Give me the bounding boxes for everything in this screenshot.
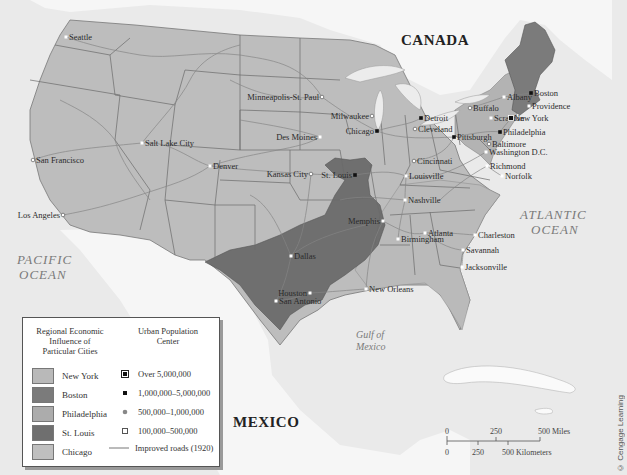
square-white-icon <box>120 428 130 434</box>
legend-improved-roads: Improved roads (1920) <box>109 443 213 453</box>
city-marker <box>365 288 368 291</box>
city-marker <box>509 116 514 121</box>
label-gulf-2: Mexico <box>355 341 385 352</box>
city-label: Boston <box>534 88 559 98</box>
city-marker <box>65 36 68 39</box>
legend-region-boston: Boston <box>32 387 88 403</box>
city-marker <box>61 213 65 217</box>
city-marker <box>485 151 488 154</box>
city-label: Savannah <box>466 245 500 255</box>
label-canada: CANADA <box>401 32 469 48</box>
svg-text:250: 250 <box>490 427 502 436</box>
city-marker <box>353 173 357 177</box>
city-marker <box>209 165 212 168</box>
city-marker <box>375 129 379 133</box>
city-label: Nashville <box>408 195 441 205</box>
city-marker <box>319 136 322 139</box>
city-marker <box>474 234 477 237</box>
svg-text:0: 0 <box>445 427 449 436</box>
city-marker <box>275 300 278 303</box>
legend-pop-1m-5m: 1,000,000–5,000,000 <box>120 388 210 398</box>
svg-text:500 Kilometers: 500 Kilometers <box>502 448 552 457</box>
city-label: Salt Lake City <box>145 138 195 148</box>
city-marker <box>461 266 464 269</box>
city-label: Des Moines <box>276 132 317 142</box>
city-label: Charleston <box>478 230 516 240</box>
city-marker <box>405 175 408 178</box>
label-atlantic-1: ATLANTIC <box>519 207 587 222</box>
label-atlantic-2: OCEAN <box>531 222 579 237</box>
city-label: New York <box>514 113 549 123</box>
city-marker <box>486 165 489 168</box>
svg-text:500 Miles: 500 Miles <box>538 427 570 436</box>
swatch-st-louis <box>32 425 54 441</box>
city-marker <box>462 249 465 252</box>
city-label: Richmond <box>490 161 526 171</box>
swatch-chicago <box>32 444 54 460</box>
city-marker <box>503 96 506 99</box>
city-label: Providence <box>532 101 570 111</box>
city-marker <box>419 116 423 120</box>
copyright-credit: © Cengage Learning <box>616 395 625 472</box>
city-label: Dallas <box>294 251 316 261</box>
label-gulf-1: Gulf of <box>356 329 385 340</box>
city-label: Chicago <box>346 126 374 136</box>
map-legend: Regional Economic Influence of Particula… <box>22 317 220 467</box>
legend-region-st-louis: St. Louis <box>32 425 95 441</box>
svg-text:250: 250 <box>472 448 484 457</box>
city-marker <box>309 292 312 295</box>
legend-urban-title: Urban Population Center <box>123 326 213 346</box>
city-label: Louisville <box>409 171 444 181</box>
road-line-icon <box>109 446 129 450</box>
city-label: Memphis <box>348 216 380 226</box>
city-marker <box>397 238 400 241</box>
city-marker <box>490 117 493 120</box>
city-marker <box>290 255 293 258</box>
swatch-boston <box>32 387 54 403</box>
city-label: Norfolk <box>505 171 533 181</box>
city-label: Pittsburgh <box>457 132 493 142</box>
city-label: Buffalo <box>473 103 499 113</box>
city-label: Washington D.C. <box>489 147 548 157</box>
city-label: Seattle <box>69 32 92 42</box>
city-marker <box>498 130 502 134</box>
city-label: St. Louis <box>321 170 352 180</box>
city-label: Denver <box>213 161 238 171</box>
city-label: Minneapolis-St. Paul <box>247 92 319 102</box>
legend-region-chicago: Chicago <box>32 444 92 460</box>
city-label: Atlanta <box>428 228 453 238</box>
legend-region-philadelphia: Philadelphia <box>32 406 107 422</box>
legend-pop-500k-1m: 500,000–1,000,000 <box>120 407 204 417</box>
city-label: Kansas City <box>267 169 309 179</box>
swatch-new-york <box>32 368 54 384</box>
label-pacific-2: OCEAN <box>19 267 67 282</box>
city-label: Jacksonville <box>465 262 507 272</box>
city-marker <box>501 175 504 178</box>
city-marker <box>412 159 416 163</box>
legend-pop-over-5m: Over 5,000,000 <box>120 369 191 379</box>
city-marker <box>468 106 472 110</box>
square-black-icon <box>120 390 130 396</box>
city-marker <box>141 142 144 145</box>
city-marker <box>452 135 456 139</box>
city-marker <box>31 158 35 162</box>
legend-pop-100k-500k: 100,000–500,000 <box>120 426 198 436</box>
city-marker <box>424 232 427 235</box>
city-marker <box>370 114 374 118</box>
label-mexico: MEXICO <box>233 414 299 430</box>
city-label: Cincinnati <box>417 156 453 166</box>
svg-text:0: 0 <box>445 448 449 457</box>
city-marker <box>413 127 417 131</box>
city-label: San Antonio <box>279 296 321 306</box>
city-marker <box>309 172 313 176</box>
swatch-philadelphia <box>32 406 54 422</box>
city-marker <box>529 91 533 95</box>
city-label: Albany <box>507 92 533 102</box>
legend-region-new-york: New York <box>32 368 99 384</box>
dot-gray-icon <box>120 409 130 415</box>
jamaica-land <box>535 408 553 414</box>
city-marker <box>528 105 531 108</box>
label-pacific-1: PACIFIC <box>16 252 72 267</box>
city-label: Philadelphia <box>503 127 546 137</box>
city-label: New Orleans <box>369 284 414 294</box>
